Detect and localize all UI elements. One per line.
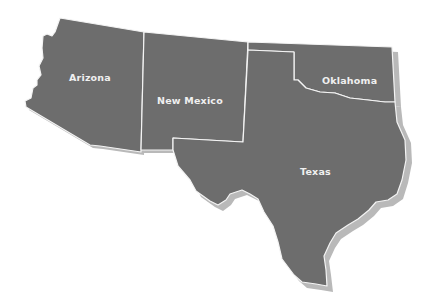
label-arizona: Arizona [69, 72, 111, 83]
map-canvas [0, 0, 438, 305]
region-map: Arizona New Mexico Oklahoma Texas [0, 0, 438, 305]
map-states [25, 18, 406, 286]
label-new-mexico: New Mexico [157, 95, 223, 106]
label-oklahoma: Oklahoma [322, 75, 377, 86]
label-texas: Texas [300, 166, 331, 177]
state-new-mexico[interactable] [141, 32, 248, 150]
state-arizona[interactable] [25, 18, 144, 152]
